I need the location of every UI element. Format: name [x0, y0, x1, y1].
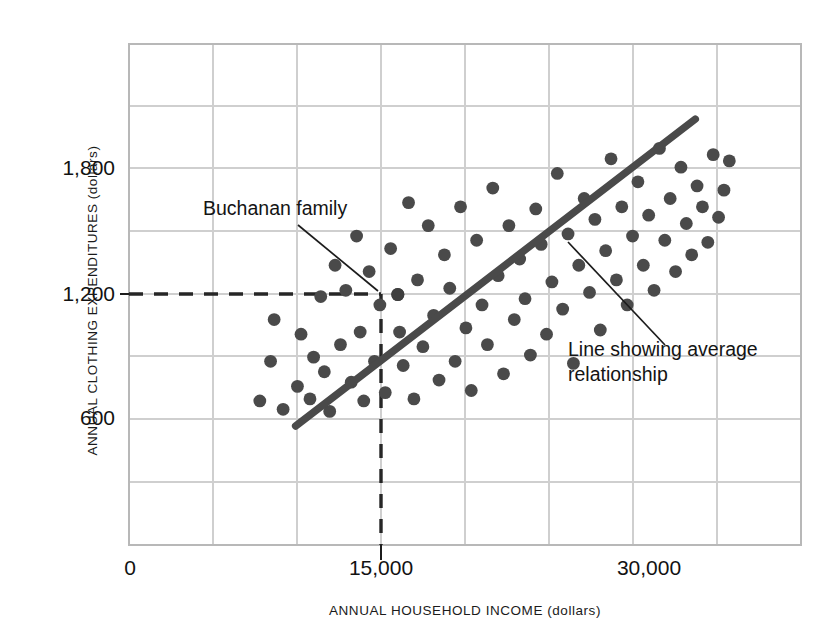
average-line-annotation-line2: relationship [568, 362, 758, 387]
scatter-point [599, 244, 612, 257]
average-line-annotation-line1: Line showing average [568, 337, 758, 362]
scatter-point [648, 284, 661, 297]
scatter-point [626, 230, 639, 243]
x-tick-label-15000: 15,000 [321, 556, 441, 580]
scatter-point [397, 359, 410, 372]
scatter-point [529, 203, 542, 216]
scatter-point [658, 234, 671, 247]
scatter-point [350, 230, 363, 243]
scatter-point [416, 340, 429, 353]
scatter-point [393, 326, 406, 339]
scatter-point [508, 313, 521, 326]
scatter-point [524, 349, 537, 362]
scatter-point [295, 328, 308, 341]
scatter-point [268, 313, 281, 326]
scatter-point [460, 322, 473, 335]
scatter-point [443, 282, 456, 295]
scatter-point [723, 155, 736, 168]
chart-canvas [0, 0, 833, 631]
scatter-point [610, 273, 623, 286]
scatter-point [470, 234, 483, 247]
scatter-point [685, 248, 698, 261]
scatter-point [318, 365, 331, 378]
scatter-point [476, 299, 489, 312]
scatter-point [449, 355, 462, 368]
scatter-point [438, 248, 451, 261]
scatter-point [465, 384, 478, 397]
scatter-point [291, 380, 304, 393]
scatter-point [605, 152, 618, 165]
scatter-point [339, 284, 352, 297]
scatter-point [486, 182, 499, 195]
scatter-point [691, 180, 704, 193]
scatter-point [707, 148, 720, 161]
scatter-point [497, 367, 510, 380]
buchanan-family-annotation: Buchanan family [203, 196, 347, 221]
x-tick-label-0: 0 [112, 556, 148, 580]
buchanan-family-point [391, 288, 404, 301]
scatter-point [632, 175, 645, 188]
scatter-point [454, 200, 467, 213]
scatter-point [572, 259, 585, 272]
scatter-point [334, 338, 347, 351]
scatter-point [718, 184, 731, 197]
scatter-point [562, 228, 575, 241]
average-line-annotation: Line showing average relationship [568, 337, 758, 387]
scatter-point [551, 167, 564, 180]
scatter-point [594, 324, 607, 337]
scatter-point [411, 273, 424, 286]
scatter-point [373, 299, 386, 312]
scatter-point [402, 196, 415, 209]
scatter-point [696, 200, 709, 213]
scatter-point [384, 242, 397, 255]
scatter-point [363, 265, 376, 278]
scatter-point [354, 326, 367, 339]
buchanan-leader-line [298, 225, 378, 291]
scatter-point [701, 236, 714, 249]
scatter-point [277, 403, 290, 416]
scatter-point [422, 219, 435, 232]
scatter-point [307, 351, 320, 364]
scatter-point [540, 328, 553, 341]
scatter-point [664, 192, 677, 205]
y-axis-title: ANNUAL CLOTHING EXPENDITURES (dollars) [85, 91, 100, 511]
scatter-point [433, 374, 446, 387]
scatter-point [637, 259, 650, 272]
scatter-point [680, 217, 693, 230]
scatter-point [669, 265, 682, 278]
scatter-point [379, 386, 392, 399]
scatter-point [546, 276, 559, 289]
scatter-point [408, 392, 421, 405]
x-axis-title: ANNUAL HOUSEHOLD INCOME (dollars) [129, 603, 801, 618]
scatter-point [357, 395, 370, 408]
scatter-point [253, 395, 266, 408]
x-tick-label-30000: 30,000 [589, 556, 709, 580]
scatter-point [675, 161, 688, 174]
scatter-point [314, 290, 327, 303]
scatter-point [712, 211, 725, 224]
scatter-point [304, 392, 317, 405]
scatter-point [642, 209, 655, 222]
scatter-point [615, 200, 628, 213]
scatter-plot-figure: 1,800 1,200 600 0 15,000 30,000 ANNUAL C… [0, 0, 833, 631]
scatter-point [589, 213, 602, 226]
scatter-point [481, 338, 494, 351]
scatter-point [329, 259, 342, 272]
scatter-point [264, 355, 277, 368]
scatter-point [556, 303, 569, 316]
scatter-point [519, 292, 532, 305]
scatter-point [583, 286, 596, 299]
scatter-point [503, 219, 516, 232]
